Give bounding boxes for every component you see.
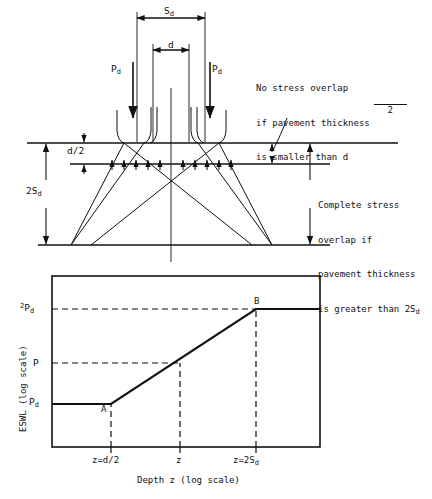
y-axis-title: ESWL (log scale) <box>18 345 30 432</box>
xtick-label-z-half-d: z=d/2 <box>92 455 119 467</box>
funnel-5 <box>197 107 204 143</box>
spread-left-mid <box>71 143 144 245</box>
annotation-line: Complete stress <box>318 200 420 212</box>
fraction-d-over-2: 2 <box>374 81 407 140</box>
eswl-depth-chart <box>0 259 432 499</box>
stress-spread-lines <box>71 143 272 245</box>
x-axis-ticks <box>111 447 256 453</box>
x-axis-title: Depth z (log scale) <box>137 475 240 487</box>
label-2sd: 2Sd <box>26 185 42 199</box>
label-d: d <box>168 39 174 51</box>
point-label-b: B <box>254 296 259 308</box>
label-sd: Sd <box>164 5 174 19</box>
spread-left-outer <box>71 143 124 245</box>
point-label-a: A <box>101 404 106 416</box>
ytick-label-2pd: 2Pd <box>20 302 34 316</box>
annotation-line: overlap if <box>318 235 420 247</box>
spread-right-inner <box>91 143 219 245</box>
annotation-line-with-fraction: is smaller than d <box>256 152 370 164</box>
figure-root: Sd d Pd Pd d/2 2Sd No stress overlap if … <box>0 0 432 499</box>
label-pd-left: Pd <box>111 63 121 77</box>
label-half-d: d/2 <box>67 145 84 157</box>
chart-frame <box>52 276 320 447</box>
annotation-line: if pavement thickness <box>256 118 370 130</box>
spread-left-inner <box>124 143 252 245</box>
xtick-label-z: z <box>176 455 181 467</box>
pressure-arrows <box>112 160 231 170</box>
annotation-line: No stress overlap <box>256 83 370 95</box>
funnel-6 <box>219 110 226 143</box>
ytick-label-pd: Pd <box>29 396 39 410</box>
funnel-2 <box>144 107 151 143</box>
funnel-1 <box>117 110 124 143</box>
eswl-curve <box>52 309 320 404</box>
ytick-label-p: P <box>33 357 39 369</box>
label-pd-right: Pd <box>212 63 222 77</box>
xtick-label-z-2sd: z=2Sd <box>233 455 259 468</box>
